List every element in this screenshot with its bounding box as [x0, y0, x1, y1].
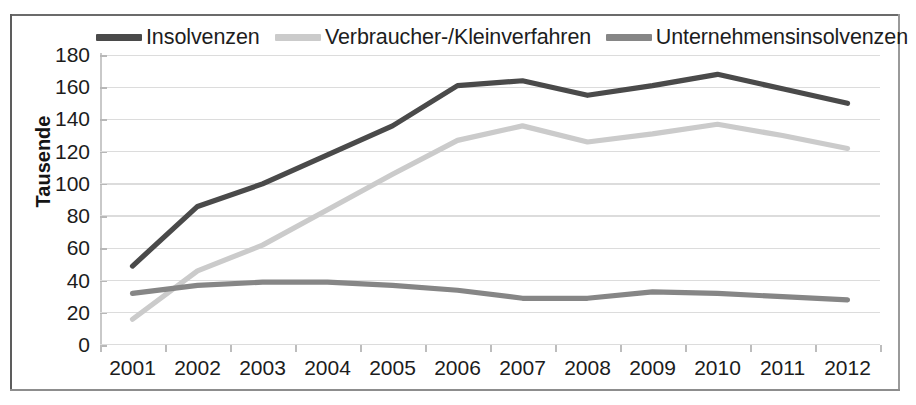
legend-swatch-insolvenzen [96, 34, 142, 41]
x-tick-label: 2012 [808, 356, 888, 380]
legend-label-verbraucher-kleinverfahren: Verbraucher-/Kleinverfahren [325, 25, 591, 50]
x-tick-mark [490, 345, 492, 352]
x-tick-mark [360, 345, 362, 352]
plot-area [100, 55, 880, 345]
y-tick-mark [100, 152, 107, 154]
x-tick-mark [165, 345, 167, 352]
legend-swatch-verbraucher-kleinverfahren [275, 34, 321, 41]
y-tick-label: 60 [32, 236, 90, 260]
x-tick-mark [230, 345, 232, 352]
y-tick-mark [100, 281, 107, 283]
y-tick-label: 20 [32, 301, 90, 325]
y-tick-label: 100 [32, 172, 90, 196]
frame-border-top [10, 14, 900, 16]
y-tick-label: 180 [32, 43, 90, 67]
x-tick-mark [100, 345, 102, 352]
legend-item-insolvenzen[interactable]: Insolvenzen [96, 25, 260, 50]
y-tick-label: 0 [32, 333, 90, 357]
y-tick-label: 80 [32, 204, 90, 228]
x-tick-mark [815, 345, 817, 352]
chart-legend: Insolvenzen Verbraucher-/Kleinverfahren … [96, 24, 908, 50]
legend-label-insolvenzen: Insolvenzen [146, 25, 260, 50]
y-tick-mark [100, 119, 107, 121]
y-tick-label: 160 [32, 75, 90, 99]
y-tick-mark [100, 87, 107, 89]
legend-swatch-unternehmensinsolvenzen [606, 34, 652, 41]
y-tick-mark [100, 216, 107, 218]
y-tick-mark [100, 184, 107, 186]
frame-border-left [10, 14, 12, 391]
x-tick-mark [555, 345, 557, 352]
x-tick-mark [295, 345, 297, 352]
x-tick-mark [425, 345, 427, 352]
chart-container: Insolvenzen Verbraucher-/Kleinverfahren … [0, 0, 916, 405]
y-tick-mark [100, 248, 107, 250]
x-tick-mark [750, 345, 752, 352]
x-axis-tick-labels: 2001200220032004200520062007200820092010… [100, 356, 880, 386]
y-tick-mark [100, 313, 107, 315]
legend-label-unternehmensinsolvenzen: Unternehmensinsolvenzen [656, 25, 908, 50]
y-axis-tick-labels: 020406080100120140160180 [32, 55, 90, 345]
y-tick-label: 40 [32, 269, 90, 293]
x-tick-mark [620, 345, 622, 352]
legend-item-unternehmensinsolvenzen[interactable]: Unternehmensinsolvenzen [606, 25, 908, 50]
x-tick-mark [685, 345, 687, 352]
y-tick-mark [100, 55, 107, 57]
y-tick-label: 140 [32, 107, 90, 131]
x-tick-mark [880, 345, 882, 352]
frame-border-right [898, 14, 900, 391]
frame-border-bottom [10, 389, 900, 391]
y-tick-label: 120 [32, 140, 90, 164]
series-lines [100, 55, 880, 345]
legend-item-verbraucher-kleinverfahren[interactable]: Verbraucher-/Kleinverfahren [275, 25, 591, 50]
